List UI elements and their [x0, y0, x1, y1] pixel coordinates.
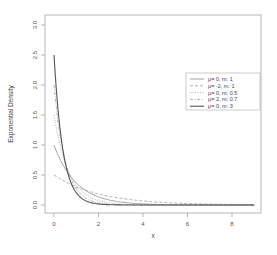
- y-tick-label: 2.5: [32, 50, 38, 59]
- x-tick-label: 2: [97, 221, 101, 227]
- density-curve: [54, 115, 254, 205]
- x-tick-label: 0: [52, 221, 56, 227]
- y-tick-label: 0.0: [32, 200, 38, 209]
- y-tick-label: 0.5: [32, 170, 38, 179]
- y-tick-label: 2.0: [32, 80, 38, 89]
- legend-label: μ= 0, m: 0.5: [208, 90, 237, 96]
- x-tick-label: 8: [230, 221, 234, 227]
- plot-frame: [45, 15, 261, 213]
- y-tick-label: 1.0: [32, 140, 38, 149]
- y-axis: 0.00.51.01.52.02.53.0: [32, 20, 45, 209]
- y-tick-label: 3.0: [32, 20, 38, 29]
- y-axis-label: Exponential Density: [7, 85, 15, 143]
- legend-label: μ= 2, m: 0.7: [208, 96, 237, 102]
- x-tick-label: 4: [141, 221, 145, 227]
- x-axis-label: x: [151, 232, 155, 239]
- density-curve: [54, 145, 254, 205]
- y-tick-label: 1.5: [32, 110, 38, 119]
- x-axis: 02468: [52, 213, 234, 227]
- legend-label: μ= 0, m: 1: [208, 76, 233, 82]
- legend: μ= 0, m: 1μ= -2, m: 1μ= 0, m: 0.5μ= 2, m…: [186, 73, 260, 110]
- chart: 0.00.51.01.52.02.53.0 02468 x Exponentia…: [0, 0, 277, 255]
- legend-label: μ= 0, m: 3: [208, 103, 233, 109]
- legend-label: μ= -2, m: 1: [208, 83, 235, 89]
- x-tick-label: 6: [186, 221, 190, 227]
